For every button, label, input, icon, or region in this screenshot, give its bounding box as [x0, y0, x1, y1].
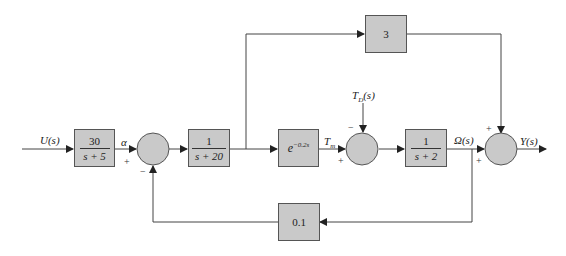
summing-junction-3: [485, 133, 517, 165]
summing-junction-1: [137, 133, 169, 165]
block-delay: e−0.2s: [278, 129, 319, 167]
feedforward-gain: 3: [383, 28, 389, 40]
g2-numerator: 1: [206, 135, 212, 147]
delay-exponent: −0.2s: [293, 141, 309, 149]
sum2-minus-sign: −: [348, 123, 354, 133]
g2-denominator: s + 20: [195, 150, 223, 162]
summing-junction-2: [346, 133, 378, 165]
omega-label: Ω(s): [454, 135, 474, 146]
sum1-plus-sign: +: [124, 157, 130, 167]
block-g1: 30 s + 5: [74, 129, 115, 167]
disturbance-label: TD(s): [352, 90, 375, 104]
tm-label: Tm: [324, 136, 335, 150]
block-feedback: 0.1: [278, 203, 320, 241]
alpha-label: α: [121, 137, 127, 148]
output-label: Y(s): [520, 136, 538, 147]
sum1-minus-sign: −: [140, 167, 146, 177]
sum3-plus-top-sign: +: [486, 124, 492, 134]
block-g3: 1 s + 2: [405, 129, 447, 167]
block-feedforward: 3: [365, 15, 407, 53]
g1-denominator: s + 5: [83, 150, 106, 162]
input-label: U(s): [40, 135, 60, 146]
sum3-plus-left-sign: +: [476, 156, 482, 166]
feedback-gain: 0.1: [292, 216, 306, 228]
sum2-plus-sign: +: [338, 156, 344, 166]
g3-numerator: 1: [423, 135, 429, 147]
g3-denominator: s + 2: [415, 150, 438, 162]
block-g2: 1 s + 20: [188, 129, 230, 167]
g1-numerator: 30: [89, 135, 100, 147]
block-diagram: 30 s + 5 1 s + 20 e−0.2s 1 s + 2 3 0.1 U…: [0, 0, 566, 256]
